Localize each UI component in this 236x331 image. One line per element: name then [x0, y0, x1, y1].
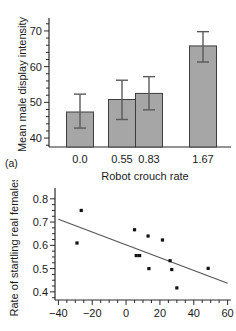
data-point — [147, 267, 150, 270]
x-tick-label-a: 0.55 — [111, 153, 132, 165]
data-point — [168, 259, 171, 262]
data-point — [135, 254, 138, 257]
data-point — [175, 286, 178, 289]
y-axis-title-b: Rate of startling real females — [8, 180, 20, 317]
y-tick-label-a: 50 — [30, 96, 42, 108]
data-point — [133, 228, 136, 231]
data-point — [146, 234, 149, 237]
y-tick-label-a: 40 — [30, 132, 42, 144]
y-tick-label-b: 0.5 — [33, 263, 48, 275]
x-tick-label-b: 40 — [188, 307, 200, 319]
panel-label-a: (a) — [5, 157, 18, 169]
bar-group — [109, 80, 136, 147]
x-tick-label-b: −20 — [83, 307, 102, 319]
data-point — [75, 241, 78, 244]
x-tick-label-a: 1.67 — [192, 153, 213, 165]
y-tick-label-b: 0.4 — [33, 286, 48, 298]
y-axis-title-a: Mean male display intensity — [16, 16, 28, 152]
y-tick-label-b: 0.6 — [33, 239, 48, 251]
figure-container: 405060700.00.550.831.67Robot crouch rate… — [0, 0, 236, 331]
data-point — [161, 238, 164, 241]
y-tick-label-a: 70 — [30, 25, 42, 37]
x-tick-label-b: −40 — [49, 307, 68, 319]
y-tick-label-b: 0.8 — [33, 193, 48, 205]
y-tick-label-a: 60 — [30, 61, 42, 73]
data-point — [207, 267, 210, 270]
x-axis-title-a: Robot crouch rate — [101, 170, 188, 180]
x-tick-label-a: 0.83 — [138, 153, 159, 165]
x-tick-label-b: 20 — [154, 307, 166, 319]
data-point — [80, 209, 83, 212]
bar-group — [67, 94, 94, 147]
y-tick-label-b: 0.7 — [33, 216, 48, 228]
regression-line — [58, 219, 227, 283]
data-point — [138, 254, 141, 257]
data-point — [170, 268, 173, 271]
bar-group — [136, 77, 163, 147]
bar-chart-panel-a: 405060700.00.550.831.67Robot crouch rate… — [0, 0, 236, 180]
scatter-chart-panel-b: 0.40.50.60.70.8−40−200204060Rate of star… — [0, 180, 236, 331]
x-tick-label-a: 0.0 — [72, 153, 87, 165]
bar-group — [190, 32, 217, 147]
x-tick-label-b: 0 — [123, 307, 129, 319]
x-tick-label-b: 60 — [221, 307, 233, 319]
